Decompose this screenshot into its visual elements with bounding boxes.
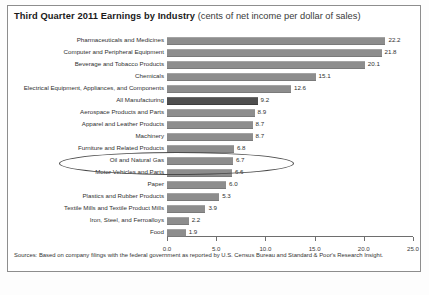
- bar-value-label: 8.7: [256, 120, 265, 127]
- chart-title-subtitle: (cents of net income per dollar of sales…: [198, 11, 361, 21]
- bar-value-label: 2.2: [192, 216, 201, 223]
- category-label: Food: [150, 228, 164, 235]
- category-label: Apparel and Leather Products: [82, 120, 164, 127]
- bar-value-label: 6.6: [235, 168, 244, 175]
- category-label: Paper: [147, 180, 164, 187]
- bar-value-label: 6.0: [229, 180, 238, 187]
- bar-value-label: 1.9: [189, 228, 198, 235]
- category-label: All Manufacturing: [116, 96, 164, 103]
- bar: [167, 85, 291, 93]
- x-tick-label: 25.0: [407, 245, 419, 252]
- x-tick-label: 20.0: [358, 245, 370, 252]
- chart-title: Third Quarter 2011 Earnings by Industry …: [14, 10, 360, 22]
- category-label: Machinery: [135, 132, 164, 139]
- bar-value-label: 6.7: [236, 156, 245, 163]
- chart-title-main: Third Quarter 2011 Earnings by Industry: [14, 11, 195, 21]
- bar: [167, 73, 316, 81]
- bar: [167, 205, 205, 213]
- category-label: Pharmaceuticals and Medicines: [77, 36, 164, 43]
- x-tick-label: 5.0: [212, 245, 220, 252]
- category-label: Textile Mills and Textile Product Mills: [64, 204, 164, 211]
- x-tick-mark: [413, 237, 414, 241]
- category-label: Motor Vehicles and Parts: [95, 168, 164, 175]
- category-label: Electrical Equipment, Appliances, and Co…: [24, 84, 164, 91]
- bar: [167, 181, 226, 189]
- category-label: Plastics and Rubber Products: [82, 192, 164, 199]
- bar-value-label: 21.8: [385, 48, 397, 55]
- bar-value-label: 8.9: [258, 108, 267, 115]
- category-label: Furniture and Related Products: [78, 144, 164, 151]
- category-label: Chemicals: [135, 72, 164, 79]
- bar-value-label: 5.3: [222, 192, 231, 199]
- bar-value-label: 12.6: [294, 84, 306, 91]
- bar-value-label: 22.2: [388, 36, 400, 43]
- x-tick-label: 0.0: [163, 245, 171, 252]
- bar: [167, 217, 189, 225]
- source-note: Sources: Based on company filings with t…: [14, 252, 383, 258]
- bar-value-label: 9.2: [261, 96, 270, 103]
- bar: [167, 169, 232, 177]
- bar-row: Food1.9: [167, 227, 413, 240]
- bar: [167, 37, 385, 45]
- bar: [167, 49, 382, 57]
- figure-caption: [0, 280, 429, 295]
- bar: [167, 157, 233, 165]
- bar: [167, 97, 258, 105]
- bar: [167, 133, 253, 141]
- bar-value-label: 20.1: [368, 60, 380, 67]
- category-label: Oil and Natural Gas: [110, 156, 164, 163]
- bar: [167, 193, 219, 201]
- bar-value-label: 8.7: [256, 132, 265, 139]
- bar-value-label: 15.1: [319, 72, 331, 79]
- bar: [167, 121, 253, 129]
- x-tick-label: 15.0: [309, 245, 321, 252]
- category-label: Computer and Peripheral Equipment: [64, 48, 164, 55]
- bar: [167, 145, 234, 153]
- chart-figure: Third Quarter 2011 Earnings by Industry …: [0, 0, 429, 295]
- x-tick-label: 10.0: [259, 245, 271, 252]
- plot-area: 0.05.010.015.020.025.0 Pharmaceuticals a…: [167, 34, 413, 237]
- category-label: Iron, Steel, and Ferroalloys: [90, 216, 164, 223]
- category-label: Aerospace Products and Parts: [80, 108, 164, 115]
- bar: [167, 61, 365, 69]
- category-label: Beverage and Tobacco Products: [75, 60, 164, 67]
- bar-value-label: 6.8: [237, 144, 246, 151]
- bar: [167, 109, 255, 117]
- bar-value-label: 3.9: [208, 204, 217, 211]
- bar: [167, 229, 186, 237]
